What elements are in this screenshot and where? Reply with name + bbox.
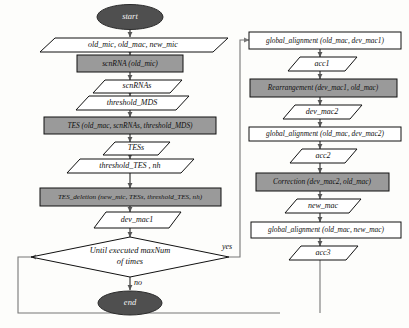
node-tess[interactable]: TESs [103,142,170,155]
node-inputs-label: old_mic, old_mac, new_mic [88,40,178,49]
flowchart-canvas: start old_mic, old_mac, new_mic scnRNA (… [0,0,409,328]
node-dev-mac2-label: dev_mac2 [306,107,338,116]
node-loop-decision[interactable]: Until executed maxNum of times [31,237,229,277]
node-start[interactable]: start [97,5,163,30]
node-dev-mac1[interactable]: dev_mac1 [94,212,181,228]
node-dev-mac1-label: dev_mac1 [121,215,153,224]
node-end[interactable]: end [98,291,162,315]
node-acc2[interactable]: acc2 [290,149,357,163]
node-loop-decision-line1: Until executed maxNum [90,246,170,255]
node-global-alignment-2[interactable]: global_alignment (old_mac, dev_mac2) [249,127,401,141]
edge-yes-branch [229,40,249,257]
node-tes-deletion-call[interactable]: TES_deletion (new_mic, TESs, threshold_T… [40,188,221,206]
node-tes-call-label: TES (old_mac, scnRNAs, threshold_MDS) [67,121,193,130]
node-tes-deletion-call-label: TES_deletion (new_mic, TESs, threshold_T… [58,193,203,201]
node-rearrangement[interactable]: Rearrangement (dev_mac1, old_mac) [250,79,397,97]
node-global-alignment-3[interactable]: global_alignment (old_mac, new_mac) [251,222,401,238]
node-threshold-tes-label: threshold_TES , nh [99,161,160,170]
node-tess-label: TESs [128,143,144,152]
node-new-mac-label: new_mac [308,201,339,210]
edge-label-no: no [134,278,142,287]
node-threshold-mds-label: threshold_MDS [107,98,157,107]
node-acc1[interactable]: acc1 [288,57,357,71]
node-acc1-label: acc1 [314,59,329,68]
node-scnrna-call-label: scnRNA (old_mic) [102,59,158,68]
node-global-alignment-1[interactable]: global_alignment (old_mac, dev_mac1) [249,32,401,49]
node-acc3-label: acc3 [315,248,330,257]
node-threshold-mds[interactable]: threshold_MDS [76,96,189,110]
node-global-alignment-2-label: global_alignment (old_mac, dev_mac2) [266,129,385,138]
node-scnrnas-label: scnRNAs [123,81,152,90]
node-scnrna-call[interactable]: scnRNA (old_mic) [77,55,183,72]
node-inputs[interactable]: old_mic, old_mac, new_mic [40,38,228,52]
node-acc2-label: acc2 [315,151,330,160]
node-tes-call[interactable]: TES (old_mac, scnRNAs, threshold_MDS) [44,117,216,134]
node-rearrangement-label: Rearrangement (dev_mac1, old_mac) [267,83,379,92]
node-global-alignment-1-label: global_alignment (old_mac, dev_mac1) [266,36,385,45]
node-end-label: end [124,297,137,307]
edge-label-yes: yes [221,242,232,251]
node-loop-decision-line2: of times [117,257,143,266]
node-global-alignment-3-label: global_alignment (old_mac, new_mac) [268,225,385,234]
node-dev-mac2[interactable]: dev_mac2 [283,105,362,119]
node-acc3[interactable]: acc3 [289,246,358,260]
node-start-label: start [122,11,138,21]
node-correction-label: Correction (dev_mac2, old_mac) [273,177,372,186]
node-threshold-tes[interactable]: threshold_TES , nh [67,159,194,173]
node-scnrnas[interactable]: scnRNAs [93,80,182,93]
node-new-mac[interactable]: new_mac [285,199,361,213]
node-correction[interactable]: Correction (dev_mac2, old_mac) [256,173,389,191]
